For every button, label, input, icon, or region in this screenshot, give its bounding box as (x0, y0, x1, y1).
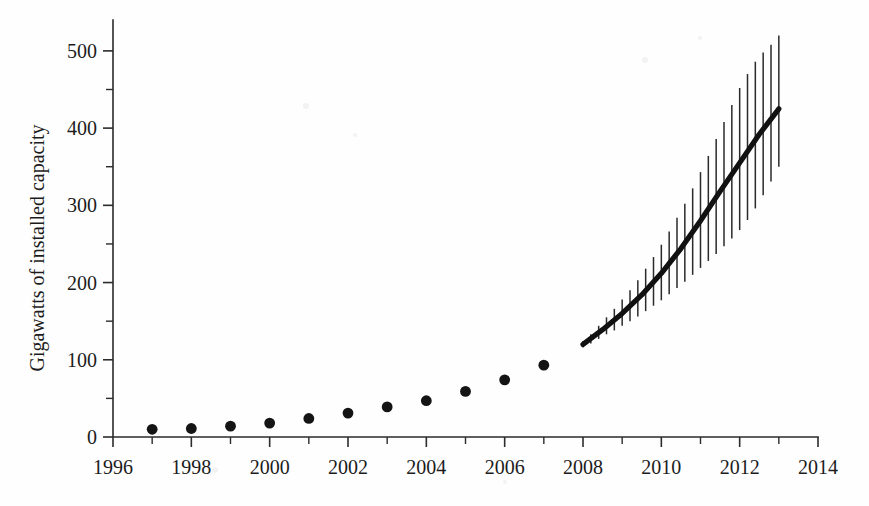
y-axis-ticks: 0100200300400500 (67, 40, 113, 448)
scan-artifacts (212, 36, 702, 484)
x-tick-label: 2006 (485, 456, 525, 478)
projection-curve (583, 109, 779, 345)
chart-canvas: 0100200300400500199619982000200220042006… (0, 0, 869, 506)
data-point (264, 418, 275, 429)
y-tick-label: 300 (67, 194, 97, 216)
x-tick-label: 2004 (406, 456, 446, 478)
chart-figure: 0100200300400500199619982000200220042006… (0, 0, 869, 506)
x-tick-label: 2008 (563, 456, 603, 478)
x-tick-label: 2010 (641, 456, 681, 478)
x-tick-label: 1998 (171, 456, 211, 478)
data-point (382, 401, 393, 412)
historical-points (147, 360, 549, 435)
x-tick-label: 2002 (328, 456, 368, 478)
x-axis-ticks: 1996199820002002200420062008201020122014 (93, 437, 838, 478)
data-point (460, 386, 471, 397)
axes (113, 20, 818, 437)
x-tick-label: 2012 (720, 456, 760, 478)
y-tick-label: 100 (67, 349, 97, 371)
data-point (421, 395, 432, 406)
data-point (225, 421, 236, 432)
x-tick-label: 2014 (798, 456, 838, 478)
y-axis-title: Gigawatts of installed capacity (26, 124, 49, 371)
data-point (538, 360, 549, 371)
error-bars (583, 35, 779, 347)
data-point (303, 413, 314, 424)
x-tick-label: 2000 (250, 456, 290, 478)
y-tick-label: 400 (67, 117, 97, 139)
projection-line (583, 109, 779, 345)
data-point (186, 423, 197, 434)
data-point (343, 408, 354, 419)
y-tick-label: 0 (87, 426, 97, 448)
y-tick-label: 200 (67, 272, 97, 294)
data-point (499, 374, 510, 385)
y-tick-label: 500 (67, 40, 97, 62)
x-tick-label: 1996 (93, 456, 133, 478)
data-point (147, 424, 158, 435)
